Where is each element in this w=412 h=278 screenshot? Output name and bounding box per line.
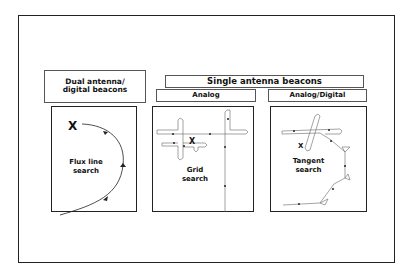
diagram-drawings: X X X (0, 0, 412, 278)
grid-x-marker: X (189, 137, 196, 146)
flux-line-path (60, 124, 123, 215)
grid-arrows (172, 118, 229, 187)
tangent-arrows (293, 129, 346, 205)
grid-search-path (157, 110, 248, 212)
tangent-search-path (282, 114, 350, 205)
tangent-x-marker: X (298, 142, 304, 150)
flux-arrows (103, 131, 126, 201)
flux-x-marker: X (68, 119, 78, 133)
